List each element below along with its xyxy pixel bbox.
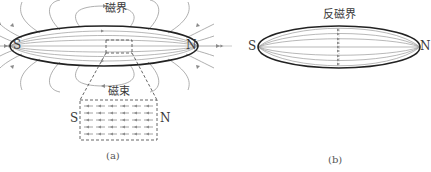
demagnetizing-field-label: 反磁界 (323, 9, 356, 21)
inset-south-pole-label: S (70, 112, 78, 124)
caption-a: (a) (106, 150, 120, 162)
inset-north-pole-label: N (160, 112, 171, 124)
caption-b: (b) (328, 154, 342, 166)
flux-label: 磁束 (108, 86, 130, 98)
internal-field-lines (10, 31, 198, 61)
figure-a (0, 0, 222, 140)
flux-arrows (84, 106, 153, 134)
north-pole-label-a: N (186, 39, 197, 51)
north-pole-label-b: N (420, 40, 431, 52)
field-label-a: 磁界 (105, 3, 127, 15)
demag-arrows (337, 29, 340, 66)
south-pole-label-a: S (13, 39, 21, 51)
south-pole-label-b: S (248, 40, 256, 52)
